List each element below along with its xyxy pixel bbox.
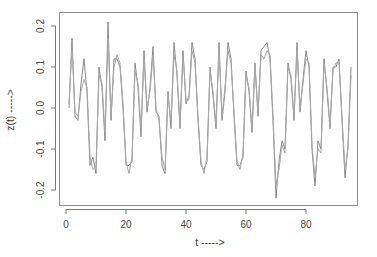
x-axis-title: t -----> <box>195 236 224 248</box>
y-tick-label: -0.1 <box>35 140 46 158</box>
line-series-2 <box>69 38 351 186</box>
x-axis: 020406080 <box>63 210 312 231</box>
y-tick-label: -0.2 <box>35 181 46 199</box>
y-axis: -0.2-0.10.00.10.2 <box>35 19 56 199</box>
y-tick-label: 0.2 <box>35 19 46 33</box>
time-series-chart: 020406080 -0.2-0.10.00.10.2 t -----> z(t… <box>0 0 377 257</box>
x-tick-label: 40 <box>180 219 192 230</box>
x-tick-label: 80 <box>300 219 312 230</box>
series-lines <box>69 22 351 198</box>
x-tick-label: 60 <box>240 219 252 230</box>
y-tick-label: 0.1 <box>35 60 46 74</box>
x-tick-label: 20 <box>120 219 132 230</box>
x-tick-label: 0 <box>63 219 69 230</box>
y-tick-label: 0.0 <box>35 101 46 115</box>
y-axis-title: z(t) -----> <box>4 89 16 131</box>
